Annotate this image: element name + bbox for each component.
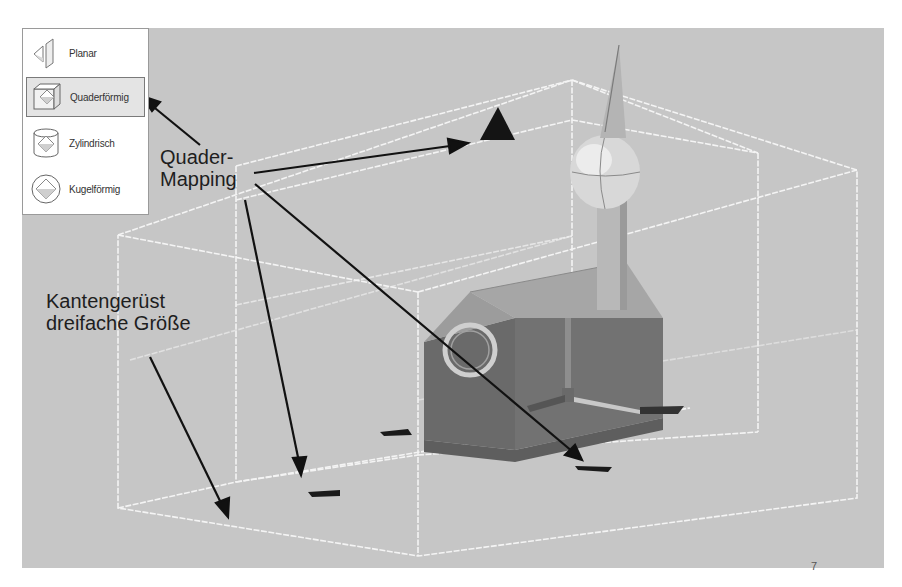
page-number: 7 (811, 560, 817, 572)
menu-item-label: Planar (69, 48, 97, 59)
axis-arrow-x (640, 406, 684, 414)
planar-projection-icon (29, 36, 63, 70)
menu-item-label: Quaderförmig (70, 92, 129, 103)
menu-item-label: Zylindrisch (69, 138, 115, 149)
menu-item-sphere[interactable]: Kugelförmig (26, 169, 145, 209)
annotation-line: Mapping (160, 168, 237, 190)
wireframe-annotation: Kantengerüst dreifache Größe (46, 290, 191, 334)
annotation-line: dreifache Größe (46, 312, 191, 334)
menu-item-label: Kugelförmig (69, 184, 120, 195)
annotation-line: Kantengerüst (46, 290, 191, 312)
sphere-projection-icon (29, 172, 63, 206)
box-projection-icon (30, 80, 64, 114)
menu-item-box[interactable]: Quaderförmig (26, 77, 145, 117)
projection-type-menu: Planar Quaderförmig Zylindrisch Kugelför… (22, 28, 149, 215)
tower-spire (600, 45, 626, 138)
menu-item-cylinder[interactable]: Zylindrisch (26, 123, 145, 163)
annotation-line: Quader- (160, 146, 237, 168)
mapping-handle-top (480, 107, 515, 140)
cylinder-projection-icon (29, 126, 63, 160)
box-mapping-annotation: Quader- Mapping (160, 146, 237, 190)
menu-item-planar[interactable]: Planar (26, 33, 145, 73)
